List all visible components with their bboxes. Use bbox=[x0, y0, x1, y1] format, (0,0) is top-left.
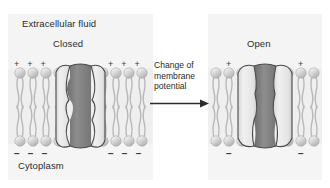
charge-minus: − bbox=[122, 149, 128, 158]
charge-plus: + bbox=[298, 60, 303, 69]
label-cytoplasm: Cytoplasm bbox=[18, 160, 64, 171]
charge-plus: + bbox=[108, 60, 113, 69]
caption-line-3: potential bbox=[154, 81, 210, 92]
charge-plus: + bbox=[135, 60, 140, 69]
channel-protein-closed bbox=[56, 64, 105, 148]
charges-extracellular-right-open: + bbox=[298, 60, 303, 69]
charges-extracellular-right-closed: + + + bbox=[108, 60, 140, 69]
charge-plus: + bbox=[27, 60, 32, 69]
charge-minus: − bbox=[136, 149, 142, 158]
caption-line-2: membrane bbox=[154, 71, 210, 82]
charge-minus: − bbox=[226, 149, 232, 158]
charges-extracellular-left-closed: + + + bbox=[14, 60, 46, 69]
caption-line-1: Change of bbox=[154, 60, 210, 71]
charge-plus: + bbox=[121, 60, 126, 69]
charge-plus: + bbox=[226, 60, 231, 69]
channel-protein-open bbox=[238, 64, 292, 148]
charges-cytoplasmic-right-closed: − − − bbox=[108, 149, 142, 158]
charges-cytoplasmic-left-closed: − − − bbox=[14, 149, 48, 158]
label-extracellular-fluid: Extracellular fluid bbox=[22, 18, 96, 29]
transition-caption: Change of membrane potential bbox=[154, 60, 210, 92]
charges-cytoplasmic-left-open: − bbox=[226, 149, 232, 158]
charge-plus: + bbox=[41, 60, 46, 69]
charge-minus: − bbox=[42, 149, 48, 158]
charges-extracellular-left-open: + bbox=[226, 60, 231, 69]
charges-cytoplasmic-right-open: − bbox=[298, 149, 304, 158]
charge-minus: − bbox=[14, 149, 20, 158]
charge-minus: − bbox=[108, 149, 114, 158]
figure-root: + + + + + + − − − − − − bbox=[0, 0, 330, 188]
label-open-state: Open bbox=[247, 38, 271, 49]
label-closed-state: Closed bbox=[53, 38, 83, 49]
transition-arrow-icon bbox=[150, 98, 210, 109]
charge-minus: − bbox=[298, 149, 304, 158]
charge-minus: − bbox=[28, 149, 34, 158]
charge-plus: + bbox=[14, 60, 19, 69]
